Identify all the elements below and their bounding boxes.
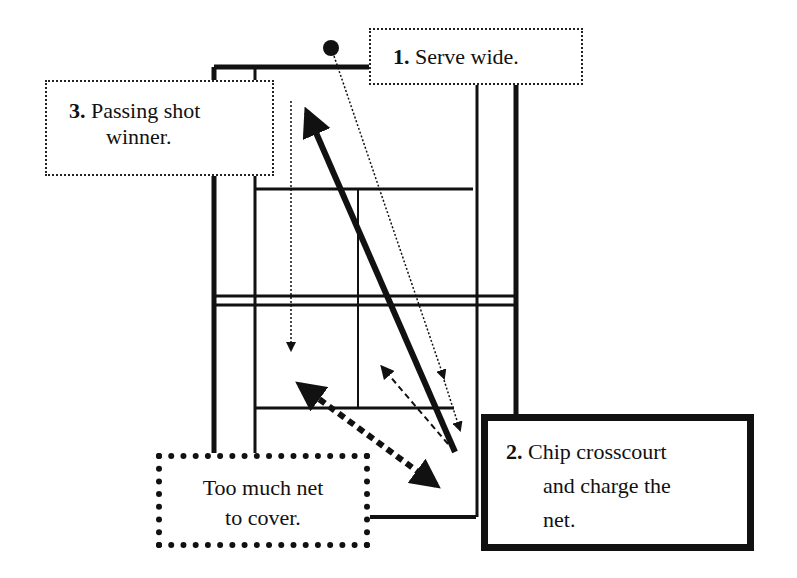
step-number: 3. — [69, 98, 86, 123]
step-number: 1. — [393, 44, 410, 69]
step-number: 2. — [506, 439, 523, 464]
label-step-2-chip-crosscourt: 2. Chip crosscourt and charge the net. — [481, 414, 754, 551]
serve-continuation — [444, 380, 460, 430]
label-step-1-serve-wide: 1. Serve wide. — [369, 28, 583, 85]
ball — [323, 40, 339, 56]
step-text-line-1: Chip crosscourt — [528, 439, 667, 464]
step-text-line-3: net. — [506, 503, 747, 537]
step-text-line-2: and charge the — [506, 469, 747, 503]
tennis-tactic-diagram: 1. Serve wide. 3. Passing shot winner. 2… — [0, 0, 797, 578]
chip-return-path — [382, 367, 448, 444]
label-step-3-passing-shot: 3. Passing shot winner. — [45, 80, 274, 176]
step-text: Serve wide. — [415, 44, 519, 69]
step-text-line-1: Passing shot — [91, 98, 200, 123]
passing-shot-path — [307, 112, 455, 452]
note-line-1: Too much net — [162, 473, 364, 503]
label-note-too-much-net: Too much net to cover. — [156, 453, 370, 548]
step-text-line-2: winner. — [69, 124, 272, 150]
note-line-2: to cover. — [162, 503, 364, 533]
